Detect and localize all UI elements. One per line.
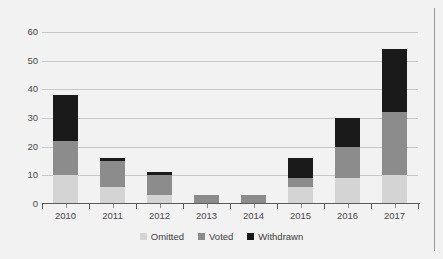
chart-legend: OmittedVotedWithdrawn xyxy=(0,231,443,242)
bar-segment-2015-withdrawn xyxy=(288,158,313,178)
bar-segment-2016-voted xyxy=(335,147,360,179)
y-tick-label-0: 0 xyxy=(8,199,38,209)
bar-segment-2017-withdrawn xyxy=(382,49,407,112)
legend-item-omitted[interactable]: Omitted xyxy=(140,231,184,242)
bar-segment-2012-voted xyxy=(147,175,172,195)
bar-segment-2010-voted xyxy=(53,141,78,175)
bar-2013 xyxy=(194,32,219,204)
legend-label: Omitted xyxy=(151,231,184,242)
x-tick-minor-2012 xyxy=(160,204,161,208)
gridline-50 xyxy=(42,61,418,62)
gridline-30 xyxy=(42,118,418,119)
x-tick-minor-2011 xyxy=(113,204,114,208)
gridline-10 xyxy=(42,175,418,176)
stacked-bar-chart: 0102030405060 20102011201220132014201520… xyxy=(0,0,443,259)
legend-label: Voted xyxy=(209,231,233,242)
x-tick-major-2 xyxy=(136,204,137,209)
right-border-rule xyxy=(434,8,435,251)
x-tick-minor-2016 xyxy=(348,204,349,208)
bar-segment-2017-voted xyxy=(382,112,407,175)
bar-segment-2015-omitted xyxy=(288,187,313,204)
bar-segment-2015-voted xyxy=(288,178,313,187)
bar-2012 xyxy=(147,32,172,204)
legend-swatch-icon-voted xyxy=(198,233,205,240)
legend-label: Withdrawn xyxy=(258,231,303,242)
bar-segment-2017-omitted xyxy=(382,175,407,204)
legend-swatch-icon-omitted xyxy=(140,233,147,240)
x-tick-major-5 xyxy=(277,204,278,209)
y-tick-label-30: 30 xyxy=(8,113,38,123)
y-tick-label-50: 50 xyxy=(8,56,38,66)
bar-segment-2016-withdrawn xyxy=(335,118,360,147)
x-tick-minor-2013 xyxy=(207,204,208,208)
bar-segment-2010-withdrawn xyxy=(53,95,78,141)
bar-segment-2011-voted xyxy=(100,161,125,187)
x-tick-minor-2017 xyxy=(395,204,396,208)
x-tick-minor-2010 xyxy=(66,204,67,208)
bar-segment-2011-omitted xyxy=(100,187,125,204)
x-tick-major-6 xyxy=(324,204,325,209)
bar-segment-2010-omitted xyxy=(53,175,78,204)
bar-2010 xyxy=(53,32,78,204)
x-tick-major-3 xyxy=(183,204,184,209)
gridline-40 xyxy=(42,89,418,90)
bar-segment-2016-omitted xyxy=(335,178,360,204)
x-tick-minor-2014 xyxy=(254,204,255,208)
x-tick-major-4 xyxy=(230,204,231,209)
x-tick-major-7 xyxy=(371,204,372,209)
y-tick-label-20: 20 xyxy=(8,142,38,152)
bar-segment-2012-withdrawn xyxy=(147,172,172,175)
x-tick-major-0 xyxy=(42,204,43,209)
x-axis-line xyxy=(42,203,420,204)
x-tick-major-8 xyxy=(418,204,419,209)
legend-swatch-icon-withdrawn xyxy=(247,233,254,240)
x-tick-major-1 xyxy=(89,204,90,209)
legend-item-withdrawn[interactable]: Withdrawn xyxy=(247,231,303,242)
y-tick-label-60: 60 xyxy=(8,27,38,37)
gridline-60 xyxy=(42,32,418,33)
bar-2011 xyxy=(100,32,125,204)
legend-item-voted[interactable]: Voted xyxy=(198,231,233,242)
y-tick-label-10: 10 xyxy=(8,170,38,180)
plot-area xyxy=(42,32,418,204)
bar-2014 xyxy=(241,32,266,204)
bar-2017 xyxy=(382,32,407,204)
x-tick-minor-2015 xyxy=(301,204,302,208)
gridline-20 xyxy=(42,147,418,148)
y-tick-label-40: 40 xyxy=(8,84,38,94)
x-tick-label-2017: 2017 xyxy=(365,210,425,221)
bar-segment-2011-withdrawn xyxy=(100,158,125,161)
bar-2016 xyxy=(335,32,360,204)
bar-2015 xyxy=(288,32,313,204)
y-axis: 0102030405060 xyxy=(4,32,38,204)
